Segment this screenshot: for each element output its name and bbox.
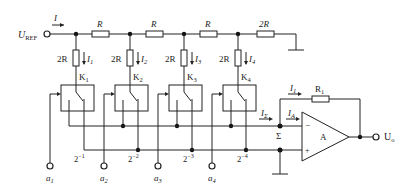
dac-circuit-diagram: UREF I R R R 2R (0, 0, 416, 193)
switch-box (169, 85, 202, 111)
svg-text:K2: K2 (133, 72, 143, 83)
svg-text:2R: 2R (57, 54, 68, 64)
svg-text:R1: R1 (315, 84, 324, 95)
switch-blade (76, 92, 83, 101)
svg-text:I1: I1 (86, 54, 93, 65)
resistor-r-3 (200, 31, 217, 37)
input-terminal-a3 (155, 163, 161, 169)
branch-labels: 2R I1 K1 2R I2 K2 2R I3 K3 2R I4 K4 2−1 … (46, 54, 256, 184)
uref-terminal (44, 31, 50, 37)
svg-text:2R: 2R (165, 54, 176, 64)
svg-text:K3: K3 (187, 72, 197, 83)
output-terminal (373, 134, 379, 140)
svg-text:2−3: 2−3 (183, 153, 194, 164)
svg-text:I3: I3 (194, 54, 202, 65)
svg-text:a3: a3 (154, 173, 163, 184)
input-terminal-a1 (47, 163, 53, 169)
svg-text:−: − (305, 120, 310, 130)
svg-text:I1: I1 (289, 83, 296, 94)
svg-text:I4: I4 (248, 54, 256, 65)
svg-text:2−2: 2−2 (128, 153, 139, 164)
svg-text:2−4: 2−4 (237, 153, 248, 164)
svg-text:A: A (320, 132, 327, 142)
uref-label: UREF (18, 29, 38, 41)
label-r-2: R (150, 19, 157, 29)
input-terminal-a4 (209, 163, 215, 169)
switch-box (223, 85, 256, 111)
svg-text:+: + (305, 146, 310, 155)
svg-text:K1: K1 (79, 72, 89, 83)
switch-box (61, 85, 94, 111)
label-r-3: R (204, 19, 211, 29)
label-2r-terminal: 2R (259, 19, 270, 29)
svg-text:IΣ: IΣ (260, 108, 268, 119)
resistor-r-1 (92, 31, 109, 37)
input-terminal-a2 (101, 163, 107, 169)
svg-text:a2: a2 (100, 173, 109, 184)
svg-text:IA: IA (287, 108, 295, 119)
svg-text:I2: I2 (140, 54, 148, 65)
svg-text:2R: 2R (219, 54, 230, 64)
svg-text:Uo: Uo (384, 131, 394, 143)
svg-text:K4: K4 (241, 72, 252, 83)
svg-text:Σ: Σ (276, 131, 281, 141)
resistor-2r-terminal (257, 31, 274, 37)
switch-box (115, 85, 148, 111)
label-r-1: R (96, 19, 103, 29)
feedback-resistor (312, 96, 329, 102)
svg-text:2−1: 2−1 (74, 153, 85, 164)
svg-text:2R: 2R (111, 54, 122, 64)
svg-text:a1: a1 (46, 173, 54, 184)
resistor-r-2 (146, 31, 163, 37)
resistor-2r-branch (73, 50, 79, 66)
input-current-label: I (53, 13, 58, 23)
svg-text:a4: a4 (208, 173, 217, 184)
